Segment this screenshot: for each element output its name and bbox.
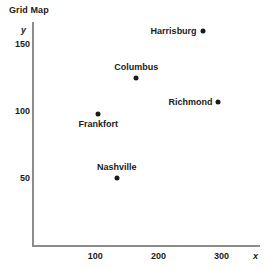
- data-point-label: Harrisburg: [151, 26, 197, 36]
- data-point-label: Frankfort: [79, 119, 119, 129]
- chart-title: Grid Map: [9, 5, 49, 15]
- data-point: [96, 111, 101, 116]
- y-tick-label: 50: [20, 173, 30, 183]
- x-tick-label: 300: [214, 251, 229, 261]
- y-axis-label: y: [21, 25, 26, 35]
- y-tick-label: 150: [15, 39, 30, 49]
- x-tick-label: 100: [88, 251, 103, 261]
- y-axis-line: [32, 22, 34, 246]
- x-axis-line: [32, 245, 260, 247]
- data-point: [114, 176, 119, 181]
- data-point-label: Columbus: [114, 62, 158, 72]
- y-tick-label: 100: [15, 106, 30, 116]
- data-point-label: Richmond: [168, 97, 212, 107]
- data-point: [200, 28, 205, 33]
- x-tick-label: 200: [151, 251, 166, 261]
- data-point: [216, 99, 221, 104]
- scatter-chart: Grid Map y x 50100150 100200300 Harrisbu…: [0, 0, 266, 269]
- data-point: [134, 75, 139, 80]
- data-point-label: Nashville: [97, 162, 137, 172]
- x-axis-label: x: [253, 251, 258, 261]
